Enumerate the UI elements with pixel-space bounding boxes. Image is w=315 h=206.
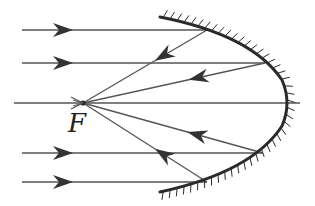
mirror-hatch-mark bbox=[163, 10, 168, 17]
mirror-hatch-mark bbox=[277, 134, 281, 141]
mirror-hatch-mark bbox=[256, 49, 263, 54]
mirror-hatch-mark bbox=[277, 71, 285, 74]
mirror-hatch-mark bbox=[225, 30, 231, 36]
mirror-hatch-mark bbox=[284, 121, 291, 127]
mirror-surface bbox=[160, 17, 287, 192]
arrow-reflected-icon bbox=[155, 149, 176, 166]
mirror-hatch-mark bbox=[272, 139, 276, 147]
mirror-hatch-mark bbox=[218, 27, 224, 33]
mirror-hatch-mark bbox=[282, 77, 290, 79]
mirror-hatch-mark bbox=[205, 22, 210, 29]
mirror-hatch-mark bbox=[238, 165, 239, 174]
arrow-reflected-icon bbox=[155, 45, 176, 61]
mirror-hatch-mark bbox=[256, 153, 258, 161]
mirror-hatch-mark bbox=[267, 59, 275, 63]
mirror-hatch-mark bbox=[177, 14, 182, 21]
mirror-hatch-mark bbox=[231, 168, 232, 176]
concave-mirror bbox=[160, 10, 295, 200]
mirror-hatch-mark bbox=[286, 114, 293, 119]
mirror-hatch-mark bbox=[284, 86, 293, 87]
reflected-ray bbox=[83, 103, 263, 153]
reflected-ray bbox=[83, 103, 207, 182]
mirror-hatch-mark bbox=[244, 41, 251, 46]
mirror-hatch-mark bbox=[267, 144, 270, 152]
mirror-hatch-mark bbox=[183, 186, 184, 195]
mirror-hatch-mark bbox=[238, 37, 244, 43]
focus-label: F bbox=[68, 110, 86, 136]
mirror-hatch-mark bbox=[170, 12, 175, 19]
mirror-hatch-mark bbox=[231, 33, 237, 39]
mirror-hatch-mark bbox=[273, 65, 281, 68]
mirror-hatch-mark bbox=[262, 54, 269, 58]
mirror-hatch-mark bbox=[250, 45, 257, 50]
incident-rays bbox=[22, 23, 265, 189]
mirror-hatch-mark bbox=[191, 184, 192, 193]
mirror-hatch-mark bbox=[198, 20, 203, 27]
mirror-hatch-mark bbox=[212, 24, 218, 31]
mirror-hatch-mark bbox=[281, 128, 286, 135]
reflected-rays bbox=[83, 30, 265, 182]
mirror-hatch-mark bbox=[225, 171, 226, 180]
reflected-ray bbox=[83, 63, 265, 103]
concave-mirror-diagram bbox=[0, 0, 315, 206]
reflected-ray bbox=[83, 30, 207, 103]
mirror-hatch-mark bbox=[184, 15, 189, 22]
mirror-hatch-mark bbox=[191, 17, 196, 24]
mirror-hatch-mark bbox=[250, 157, 252, 165]
